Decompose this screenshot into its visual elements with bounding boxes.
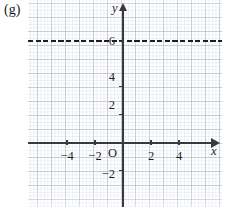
- y-tick-mark: [119, 170, 124, 171]
- y-tick-label-4: 4: [98, 71, 115, 84]
- x-axis-label: x: [211, 145, 217, 158]
- x-tick-label-minus-2: −2: [81, 150, 109, 163]
- y-tick-label-minus-2: −2: [94, 168, 115, 181]
- y-tick-label-6: 6: [98, 35, 115, 48]
- y-tick-label-2: 2: [98, 99, 115, 112]
- y-tick-mark: [119, 41, 124, 42]
- y-tick-mark: [119, 114, 124, 115]
- x-tick-label-4: 4: [165, 150, 193, 163]
- y-axis-label: y: [112, 2, 118, 15]
- x-axis-line: [28, 142, 214, 144]
- y-axis-line: [122, 9, 124, 207]
- coordinate-grid: [28, 0, 222, 207]
- origin-label: O: [108, 147, 117, 160]
- x-tick-mark: [150, 140, 151, 145]
- x-tick-mark: [66, 140, 67, 145]
- x-tick-mark: [178, 140, 179, 145]
- x-tick-label-minus-4: −4: [53, 150, 81, 163]
- x-tick-mark: [94, 140, 95, 145]
- part-label: (g): [4, 2, 20, 18]
- y-tick-mark: [119, 86, 124, 87]
- graph-figure: (g) 6 4 2 −2 −4 −2 2 4 O x y: [0, 0, 225, 207]
- x-tick-label-2: 2: [137, 150, 165, 163]
- y-axis-arrow-icon: [119, 3, 127, 11]
- dashed-line-y-equals-6: [28, 40, 222, 42]
